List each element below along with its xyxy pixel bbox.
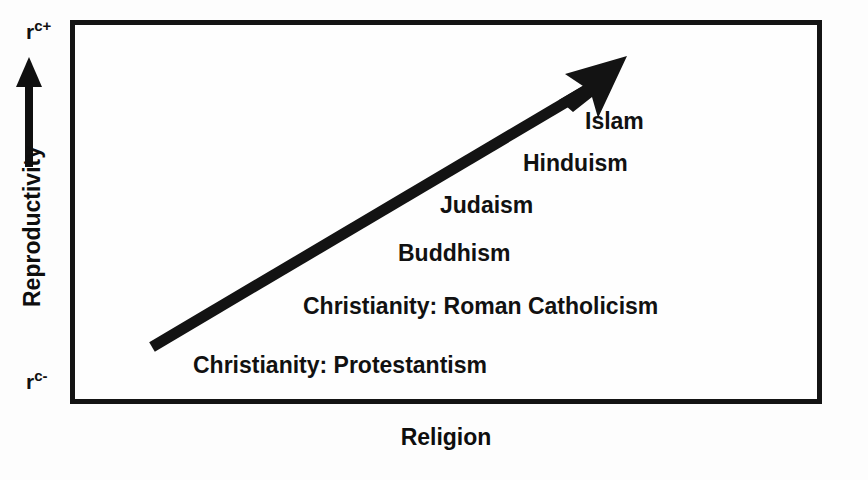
religion-label-hinduism: Hinduism bbox=[523, 152, 628, 175]
religion-label-protestantism: Christianity: Protestantism bbox=[193, 354, 487, 377]
y-axis-title: Reproductivity bbox=[19, 132, 46, 322]
y-axis-label-group: Reproductivity bbox=[0, 55, 56, 385]
y-axis-max-tick-superscript: c+ bbox=[34, 17, 51, 34]
religion-label-islam: Islam bbox=[585, 110, 644, 133]
religion-label-buddhism: Buddhism bbox=[398, 242, 510, 265]
religion-label-roman-catholicism: Christianity: Roman Catholicism bbox=[303, 295, 658, 318]
figure-root: rc+ rc- Reproductivity Religion Islam Hi… bbox=[0, 0, 868, 480]
y-axis-max-tick-label: rc+ bbox=[26, 18, 51, 42]
x-axis-title: Religion bbox=[70, 424, 822, 451]
y-axis-max-tick-base: r bbox=[26, 20, 34, 43]
religion-label-judaism: Judaism bbox=[440, 194, 533, 217]
